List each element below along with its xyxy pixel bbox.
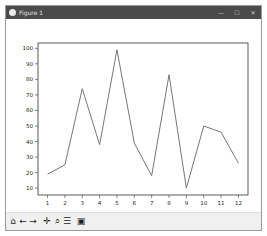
zoom-magnifier-icon[interactable]: ⌕: [52, 216, 62, 227]
x-tick-label: 8: [167, 200, 171, 206]
y-tick-label: 50: [26, 123, 33, 129]
y-tick-label: 40: [26, 139, 33, 145]
minimize-button[interactable]: —: [216, 8, 226, 17]
y-tick-label: 10: [26, 185, 33, 191]
x-tick-label: 6: [133, 200, 137, 206]
x-tick-label: 1: [46, 200, 50, 206]
plot-canvas[interactable]: 102030405060708090100123456789101112: [6, 19, 261, 215]
maximize-button[interactable]: ☐: [232, 8, 242, 17]
y-tick-label: 30: [26, 154, 33, 160]
axes-frame: [38, 43, 248, 195]
y-tick-label: 80: [26, 76, 33, 82]
line-chart: 102030405060708090100123456789101112: [6, 19, 261, 215]
configure-subplots-icon[interactable]: ☰: [62, 216, 72, 227]
x-tick-label: 10: [200, 200, 207, 206]
window-title: Figure 1: [19, 9, 43, 16]
forward-arrow-icon[interactable]: →: [28, 216, 38, 227]
x-tick-label: 12: [235, 200, 242, 206]
figure-window: Figure 1 — ☐ ✕ 1020304050607080901001234…: [5, 5, 262, 231]
navigation-toolbar: ⌂ ← → ✛ ⌕ ☰ ▣: [6, 212, 261, 230]
y-tick-label: 70: [26, 92, 33, 98]
x-tick-label: 11: [218, 200, 225, 206]
x-tick-label: 9: [185, 200, 189, 206]
home-icon[interactable]: ⌂: [8, 216, 18, 227]
y-tick-label: 100: [23, 45, 34, 51]
close-button[interactable]: ✕: [248, 8, 258, 17]
matplotlib-app-icon: [9, 9, 16, 16]
save-floppy-icon[interactable]: ▣: [76, 216, 86, 227]
x-tick-label: 2: [63, 200, 67, 206]
back-arrow-icon[interactable]: ←: [18, 216, 28, 227]
x-tick-label: 7: [150, 200, 154, 206]
x-tick-label: 4: [98, 200, 102, 206]
title-bar[interactable]: Figure 1 — ☐ ✕: [6, 6, 261, 19]
y-tick-label: 60: [26, 107, 33, 113]
x-tick-label: 5: [115, 200, 119, 206]
y-tick-label: 90: [26, 61, 33, 67]
y-tick-label: 20: [26, 170, 33, 176]
pan-move-icon[interactable]: ✛: [42, 216, 52, 227]
x-tick-label: 3: [81, 200, 85, 206]
